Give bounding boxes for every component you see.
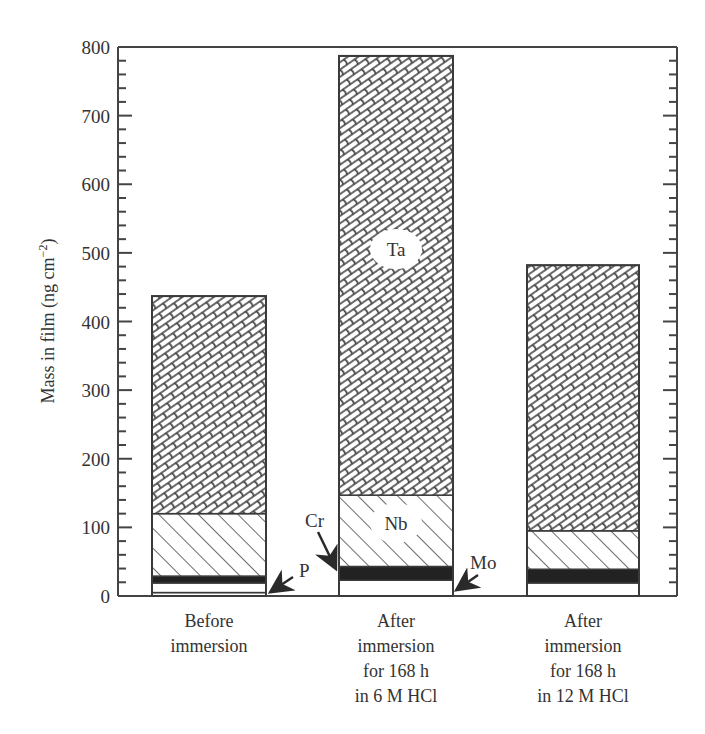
y-tick-label: 800: [82, 37, 111, 58]
cr-arrow: [318, 532, 335, 567]
y-tick-label: 600: [82, 174, 111, 195]
segment-cr: [339, 566, 453, 580]
y-tick-label: 300: [82, 380, 111, 401]
bar-3: [527, 265, 639, 596]
y-tick-label: 400: [82, 312, 111, 333]
category-labels: BeforeimmersionAfterimmersionfor 168 hin…: [171, 611, 629, 706]
y-tick-label: 100: [82, 517, 111, 538]
category-label: immersion: [545, 636, 622, 656]
mo-label: Mo: [470, 552, 496, 573]
nb-label: Nb: [384, 513, 407, 534]
p-arrow: [272, 577, 293, 591]
y-axis-label: Mass in film (ng cm−2): [36, 239, 59, 404]
category-label: for 168 h: [550, 661, 616, 681]
y-tick-label: 0: [101, 586, 111, 607]
category-label: for 168 h: [363, 661, 429, 681]
segment-cr: [527, 569, 639, 583]
category-label: Before: [185, 611, 234, 631]
mo-arrow: [458, 575, 478, 589]
ta-label: Ta: [387, 239, 406, 260]
y-tick-label: 200: [82, 449, 111, 470]
category-label: in 6 M HCl: [355, 686, 438, 706]
category-label: After: [377, 611, 415, 631]
p-label: P: [299, 560, 310, 581]
category-label: immersion: [358, 636, 435, 656]
segment-ta: [339, 56, 453, 495]
bar-1: [152, 296, 266, 596]
category-label: in 12 M HCl: [537, 686, 629, 706]
category-label: After: [564, 611, 602, 631]
segment-cr: [152, 576, 266, 583]
segment-nb: [527, 531, 639, 569]
y-tick-label: 700: [82, 106, 111, 127]
segment-nb: [152, 514, 266, 576]
stacked-bar-chart: 0100200300400500600700800 Mass in film (…: [0, 0, 705, 734]
segment-mo: [152, 583, 266, 593]
segment-mo: [339, 580, 453, 596]
segment-ta: [527, 265, 639, 531]
y-tick-label: 500: [82, 243, 111, 264]
cr-label: Cr: [305, 510, 325, 531]
segment-ta: [152, 296, 266, 514]
category-label: immersion: [171, 636, 248, 656]
segment-mo: [527, 583, 639, 596]
